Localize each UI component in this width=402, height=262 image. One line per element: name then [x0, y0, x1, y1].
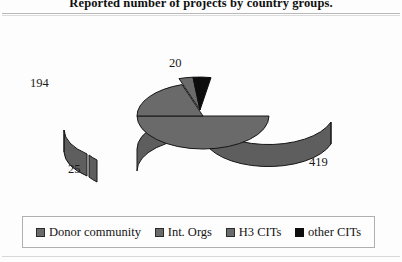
- legend-label-other-cits: other CITs: [308, 225, 361, 240]
- data-label-h3-cits: 25: [68, 162, 81, 177]
- legend-item-h3-cits[interactable]: H3 CITs: [226, 225, 282, 240]
- legend-swatch-icon: [155, 228, 164, 237]
- legend-label-int-orgs: Int. Orgs: [168, 225, 212, 240]
- pie-slice-h3-cits-side: [89, 155, 97, 182]
- legend-item-donor-community[interactable]: Donor community: [36, 225, 141, 240]
- chart-page: Reported number of projects by country g…: [0, 0, 402, 262]
- legend-swatch-icon: [295, 228, 304, 237]
- title-divider: [2, 13, 400, 14]
- bottom-divider: [2, 256, 400, 257]
- legend-label-h3-cits: H3 CITs: [239, 225, 282, 240]
- legend-item-list: Donor community Int. Orgs H3 CITs other …: [23, 217, 374, 247]
- data-label-int-orgs: 194: [30, 76, 49, 91]
- title-divider-shadow: [2, 15, 400, 16]
- pie-chart-plot-area: 20 194 25 419: [0, 18, 402, 198]
- legend-swatch-icon: [36, 228, 45, 237]
- chart-legend: Donor community Int. Orgs H3 CITs other …: [22, 216, 375, 248]
- legend-item-other-cits[interactable]: other CITs: [295, 225, 361, 240]
- pie-chart-graphic: [0, 18, 402, 198]
- legend-swatch-icon: [226, 228, 235, 237]
- legend-label-donor-community: Donor community: [49, 225, 141, 240]
- chart-title: Reported number of projects by country g…: [0, 0, 402, 11]
- data-label-other-cits: 20: [169, 56, 182, 71]
- legend-item-int-orgs[interactable]: Int. Orgs: [155, 225, 212, 240]
- data-label-donor-community: 419: [309, 155, 328, 170]
